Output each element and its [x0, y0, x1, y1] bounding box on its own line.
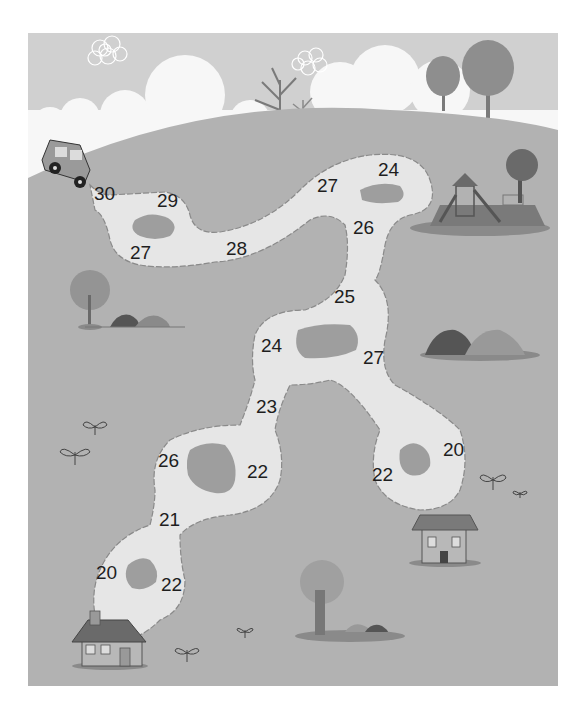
number-24: 24 — [378, 159, 400, 180]
number-30: 30 — [94, 183, 115, 204]
number-24: 24 — [261, 335, 283, 356]
number-27: 27 — [317, 175, 338, 196]
number-27: 27 — [130, 242, 151, 263]
number-26: 26 — [158, 450, 179, 471]
number-22: 22 — [161, 574, 182, 595]
number-20: 20 — [443, 439, 464, 460]
number-22: 22 — [247, 461, 268, 482]
maze-scene: 30 29 27 28 27 24 26 25 24 27 23 26 22 2… — [0, 0, 585, 711]
number-26: 26 — [353, 217, 374, 238]
number-20: 20 — [96, 562, 117, 583]
number-29: 29 — [157, 190, 178, 211]
number-22: 22 — [372, 464, 393, 485]
number-28: 28 — [226, 238, 247, 259]
number-23: 23 — [256, 396, 277, 417]
number-25: 25 — [334, 286, 355, 307]
number-21: 21 — [159, 509, 180, 530]
number-27: 27 — [363, 347, 384, 368]
